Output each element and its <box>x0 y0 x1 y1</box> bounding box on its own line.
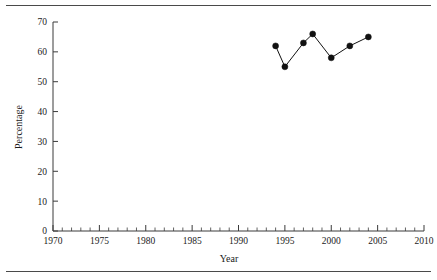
data-point-marker <box>310 31 316 37</box>
y-axis-major-ticks <box>53 22 58 231</box>
y-axis-tick-label: 30 <box>38 137 48 147</box>
x-axis-tick-label: 1980 <box>136 236 155 246</box>
figure-container: 197019751980198519901995200020052010 010… <box>0 0 437 280</box>
line-chart: 197019751980198519901995200020052010 010… <box>0 0 437 280</box>
x-axis-tick-label: 1990 <box>229 236 248 246</box>
x-axis-tick-label: 1985 <box>183 236 202 246</box>
data-series-line <box>276 34 369 67</box>
data-point-marker <box>347 43 353 49</box>
y-axis-tick-label: 40 <box>38 107 48 117</box>
y-axis-tick-label: 0 <box>42 226 47 236</box>
x-axis-tick-label: 1975 <box>90 236 109 246</box>
x-axis-tick-label: 2000 <box>322 236 341 246</box>
y-axis-tick-label: 70 <box>38 17 48 27</box>
x-axis-title: Year <box>220 253 239 264</box>
y-axis-title: Percentage <box>13 105 24 149</box>
y-axis-tick-label: 50 <box>38 77 48 87</box>
y-axis-tick-labels: 010203040506070 <box>38 17 48 236</box>
x-axis-tick-labels: 197019751980198519901995200020052010 <box>44 236 434 246</box>
data-point-marker <box>328 55 334 61</box>
x-axis-tick-label: 2005 <box>368 236 387 246</box>
data-point-marker <box>282 64 288 70</box>
y-axis-tick-label: 60 <box>38 47 48 57</box>
x-axis-tick-label: 1995 <box>275 236 294 246</box>
data-point-marker <box>273 43 279 49</box>
x-axis-tick-label: 2010 <box>415 236 434 246</box>
data-point-marker <box>300 40 306 46</box>
x-axis-tick-label: 1970 <box>44 236 63 246</box>
y-axis-tick-label: 10 <box>38 197 48 207</box>
data-point-marker <box>365 34 371 40</box>
axes-group <box>53 22 424 231</box>
y-axis-tick-label: 20 <box>38 167 48 177</box>
